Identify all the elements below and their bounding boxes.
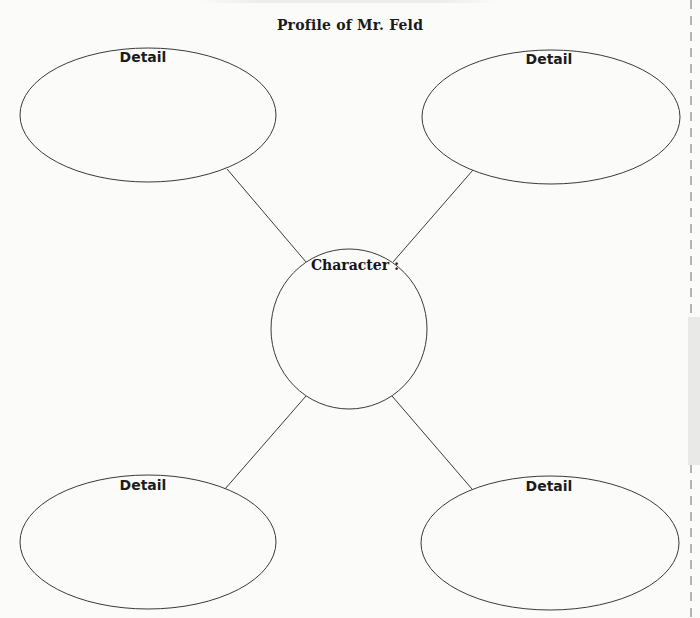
detail-ellipse-top-left[interactable] [20,48,276,182]
connector-bottom-right [392,396,472,489]
detail-label-top-right: Detail [499,51,599,67]
character-web-diagram [0,0,700,618]
character-label: Character : [299,257,411,273]
right-edge-shade [688,317,700,465]
connector-top-left [227,169,306,262]
character-circle[interactable] [271,249,427,409]
detail-ellipse-top-right[interactable] [422,50,680,184]
detail-ellipse-bottom-right[interactable] [421,476,679,610]
detail-label-bottom-right: Detail [499,478,599,494]
detail-label-top-left: Detail [93,49,193,65]
detail-ellipse-bottom-left[interactable] [20,475,276,609]
connector-top-right [393,170,473,262]
connector-bottom-left [225,396,306,489]
detail-label-bottom-left: Detail [93,477,193,493]
